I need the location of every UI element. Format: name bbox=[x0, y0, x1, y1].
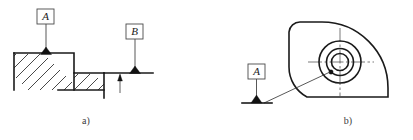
caption-a: a) bbox=[82, 115, 90, 127]
bore-center-lines bbox=[308, 28, 374, 96]
caption-b: b) bbox=[344, 115, 352, 127]
datum-b-left-triangle-icon bbox=[130, 66, 141, 74]
dimension-arrowhead-icon bbox=[118, 74, 123, 81]
panel-b-group: A b) bbox=[242, 22, 388, 127]
datum-b-left-label: B bbox=[131, 25, 138, 37]
datum-a-left-label: A bbox=[41, 10, 49, 22]
datum-a-right-label: A bbox=[252, 65, 260, 77]
drawing-canvas: A B a) bbox=[0, 0, 413, 140]
cam-profile-outline bbox=[289, 22, 388, 97]
panel-a-group: A B a) bbox=[4, 9, 153, 128]
part-outline-top bbox=[14, 53, 104, 73]
datum-a-right-leader-angled bbox=[264, 72, 330, 103]
technical-drawing-figure: A B a) bbox=[0, 0, 413, 140]
datum-a-right-triangle-icon bbox=[251, 95, 262, 103]
datum-a-left-triangle-icon bbox=[41, 47, 52, 55]
section-hatch-lower bbox=[60, 66, 122, 128]
